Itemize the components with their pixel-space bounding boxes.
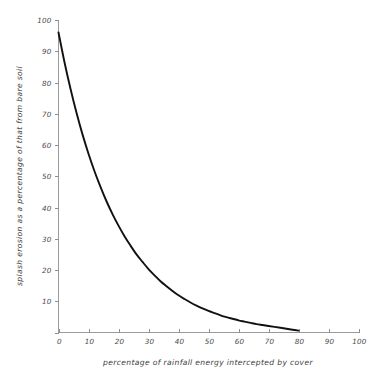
x-tick-label-50: 50 — [205, 337, 215, 346]
y-tick-label-50: 50 — [42, 172, 52, 181]
x-tick-label-40: 40 — [175, 337, 185, 346]
x-axis-group: 0102030405060708090100 — [57, 329, 367, 346]
x-axis-tick-labels: 0102030405060708090100 — [57, 337, 367, 346]
y-axis-ticks — [55, 21, 59, 334]
y-tick-label-30: 30 — [42, 235, 52, 244]
x-tick-label-80: 80 — [295, 337, 305, 346]
y-axis-tick-labels: 102030405060708090100 — [37, 16, 52, 306]
x-tick-label-0: 0 — [57, 337, 62, 346]
erosion-decay-curve — [59, 33, 299, 331]
x-tick-label-70: 70 — [265, 337, 275, 346]
y-tick-label-80: 80 — [42, 79, 52, 88]
y-tick-label-60: 60 — [42, 141, 52, 150]
x-tick-label-60: 60 — [235, 337, 245, 346]
y-tick-label-20: 20 — [42, 266, 52, 275]
x-axis-title: percentage of rainfall energy intercepte… — [102, 358, 313, 367]
y-tick-label-10: 10 — [42, 297, 52, 306]
x-tick-label-10: 10 — [85, 337, 95, 346]
x-axis-ticks — [60, 329, 360, 333]
chart-page: 102030405060708090100 010203040506070809… — [0, 0, 375, 382]
x-tick-label-30: 30 — [145, 337, 155, 346]
y-tick-label-100: 100 — [37, 16, 52, 25]
x-tick-label-90: 90 — [325, 337, 335, 346]
y-tick-label-90: 90 — [42, 47, 52, 56]
y-axis-group: 102030405060708090100 — [37, 16, 58, 333]
x-tick-label-20: 20 — [115, 337, 125, 346]
y-tick-label-40: 40 — [42, 204, 52, 213]
x-tick-label-100: 100 — [352, 337, 367, 346]
splash-erosion-chart: 102030405060708090100 010203040506070809… — [0, 0, 375, 382]
y-tick-label-70: 70 — [42, 110, 52, 119]
y-axis-title: splash erosion as a percentage of that f… — [15, 66, 24, 286]
